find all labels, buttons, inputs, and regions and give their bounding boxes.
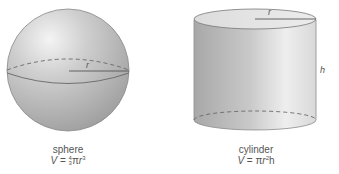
cylinder-formula: V = πr2h — [226, 155, 286, 166]
cylinder-figure: r h — [194, 7, 325, 130]
sphere-formula: V = 43πr3 — [38, 155, 98, 166]
sphere-caption: sphere V = 43πr3 — [38, 144, 98, 166]
sphere-figure: r — [7, 9, 129, 131]
cylinder-caption: cylinder V = πr2h — [226, 144, 286, 166]
sphere-shape — [7, 9, 129, 131]
cylinder-height-label: h — [320, 65, 325, 75]
cylinder-name: cylinder — [226, 144, 286, 155]
sphere-name: sphere — [38, 144, 98, 155]
